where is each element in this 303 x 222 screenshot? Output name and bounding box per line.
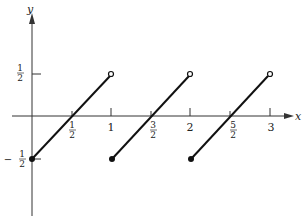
svg-text:2: 2: [230, 130, 236, 140]
sawtooth-segments: [32, 76, 268, 159]
svg-text:2: 2: [19, 159, 25, 169]
svg-text:1: 1: [19, 149, 25, 159]
x-tick-half: 1 2: [69, 120, 76, 140]
svg-text:2: 2: [150, 130, 156, 140]
closed-endpoint-2: [109, 156, 115, 162]
x-tick-1: 1: [108, 121, 115, 134]
x-tick-3: 3: [268, 121, 275, 134]
x-axis-arrow-icon: [284, 113, 294, 119]
svg-text:2: 2: [17, 73, 23, 83]
svg-text:5: 5: [230, 120, 236, 130]
x-axis-label: x: [295, 110, 302, 123]
closed-endpoint-1: [29, 156, 35, 162]
svg-text:3: 3: [150, 120, 156, 130]
segment-1: [32, 76, 110, 159]
svg-text:−: −: [4, 154, 12, 165]
svg-text:1: 1: [17, 63, 23, 73]
svg-text:2: 2: [69, 130, 75, 140]
segment-3: [191, 76, 268, 159]
x-tick-three-halves: 3 2: [150, 120, 157, 140]
x-tick-five-halves: 5 2: [230, 120, 237, 140]
x-ticks: [72, 108, 270, 116]
open-endpoint-1: [109, 72, 114, 77]
y-tick-label-half: 1 2: [17, 63, 24, 83]
segment-2: [112, 76, 189, 159]
svg-text:1: 1: [69, 120, 75, 130]
sawtooth-graph: x y 1 2 1 3 2 2 5 2 3 1 2 − 1 2: [0, 0, 303, 222]
x-tick-2: 2: [187, 121, 194, 134]
y-tick-label-neg-half: − 1 2: [4, 149, 26, 169]
y-axis-label: y: [26, 3, 34, 16]
closed-endpoint-3: [188, 156, 194, 162]
open-endpoint-3: [268, 72, 273, 77]
open-endpoint-2: [188, 72, 193, 77]
